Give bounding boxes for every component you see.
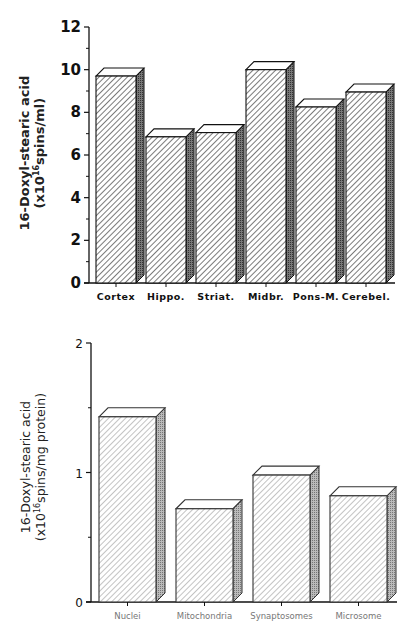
bar-mitochondria — [176, 500, 242, 602]
x-category-label: Midbr. — [248, 291, 284, 302]
x-category-label: Cerebel. — [342, 291, 391, 302]
y-tick-label: 4 — [71, 189, 81, 207]
x-category-label: Pons-M. — [293, 291, 339, 302]
x-category-label: Synaptosomes — [250, 611, 313, 621]
y-tick-label: 2 — [71, 231, 81, 249]
y-axis-label-line1: 16-Doxyl-stearic acid — [18, 372, 33, 562]
y-axis-label-line2: (x1016spins/mg protein) — [33, 372, 48, 562]
y-tick-label: 10 — [60, 61, 81, 79]
figure: 024681012CortexHippo.Striat.Midbr.Pons-M… — [0, 0, 420, 641]
y-tick-label: 0 — [71, 274, 81, 292]
x-category-label: Nuclei — [114, 611, 140, 621]
x-category-label: Mitochondria — [177, 611, 232, 621]
bar-cortex — [96, 68, 144, 283]
x-category-label: Microsome — [335, 611, 381, 621]
bar-midbr — [246, 62, 294, 283]
y-axis-label-line2: (x1016spins/ml) — [32, 63, 47, 243]
y-tick-label: 12 — [60, 18, 81, 36]
bar-microsome — [330, 487, 396, 602]
bar-synaptosomes — [253, 466, 319, 602]
bar-hippo — [146, 129, 194, 283]
x-category-label: Hippo. — [147, 291, 185, 302]
y-tick-label: 2 — [75, 337, 83, 351]
y-axis-label-line1: 16-Doxyl-stearic acid — [17, 63, 32, 243]
y-tick-label: 6 — [71, 146, 81, 164]
subcellular-fractions-chart: 012NucleiMitochondriaSynaptosomesMicroso… — [75, 337, 397, 621]
y-axis-label-bottom: 16-Doxyl-stearic acid (x1016spins/mg pro… — [18, 372, 48, 562]
y-tick-label: 8 — [71, 103, 81, 121]
bar-cerebel — [346, 84, 394, 283]
bar-nuclei — [99, 408, 165, 602]
y-tick-label: 1 — [75, 467, 83, 481]
brain-regions-chart: 024681012CortexHippo.Striat.Midbr.Pons-M… — [60, 18, 395, 302]
bar-pons-m — [296, 99, 344, 283]
x-category-label: Striat. — [197, 291, 234, 302]
x-category-label: Cortex — [97, 291, 135, 302]
y-axis-label-top: 16-Doxyl-stearic acid (x1016spins/ml) — [17, 63, 47, 243]
bar-striat — [196, 125, 244, 283]
y-tick-label: 0 — [75, 596, 83, 610]
